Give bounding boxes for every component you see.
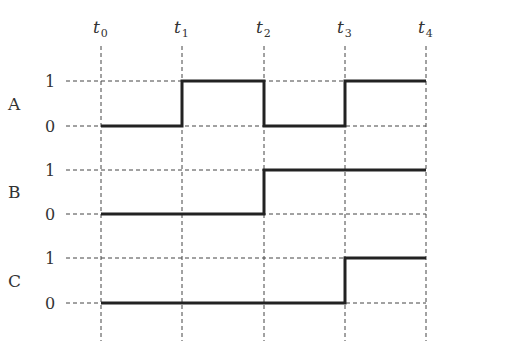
time-label-t2: t2 [256, 17, 271, 40]
time-label-t1: t1 [174, 17, 189, 40]
time-axis-labels: t0t1t2t3t4 [93, 17, 433, 40]
level-label-low: 0 [45, 294, 55, 313]
level-label-high: 1 [45, 72, 55, 91]
signal-rows: A10B10C10 [7, 72, 426, 313]
signal-label: B [8, 182, 21, 202]
signal-label: C [8, 271, 21, 291]
time-label-t4: t4 [418, 17, 433, 40]
signal-row-b: B10 [8, 161, 426, 224]
signal-label: A [7, 94, 21, 114]
level-label-high: 1 [45, 249, 55, 268]
level-label-low: 0 [45, 205, 55, 224]
time-label-t0: t0 [93, 17, 108, 40]
timing-diagram: t0t1t2t3t4 A10B10C10 [0, 0, 512, 347]
level-label-high: 1 [45, 161, 55, 180]
timing-diagram-canvas: t0t1t2t3t4 A10B10C10 [0, 0, 512, 347]
waveform [101, 170, 426, 214]
signal-row-a: A10 [7, 72, 426, 136]
signal-row-c: C10 [8, 249, 426, 313]
waveform [101, 81, 426, 126]
level-label-low: 0 [45, 117, 55, 136]
time-label-t3: t3 [337, 17, 352, 40]
